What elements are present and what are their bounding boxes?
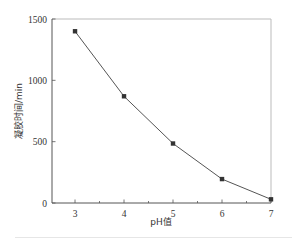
x-tick-label: 3 xyxy=(73,209,78,219)
plot-frame xyxy=(52,19,271,203)
x-axis-ticks xyxy=(75,200,271,204)
chart: 34567 050010001500 pH值 凝胶时间/min xyxy=(0,0,292,249)
y-tick-label: 1000 xyxy=(28,76,47,86)
x-tick-label: 4 xyxy=(122,209,127,219)
data-point-marker xyxy=(73,29,77,33)
x-tick-label: 7 xyxy=(269,209,274,219)
y-axis-tick-labels: 050010001500 xyxy=(28,15,47,209)
y-tick-label: 500 xyxy=(33,137,48,147)
x-axis-title: pH值 xyxy=(150,216,171,227)
y-tick-label: 0 xyxy=(42,199,47,209)
data-point-marker xyxy=(220,177,224,181)
data-point-marker xyxy=(122,94,126,98)
data-series xyxy=(73,29,273,201)
data-point-marker xyxy=(171,141,175,145)
x-axis-tick-labels: 34567 xyxy=(73,209,274,219)
y-axis-ticks xyxy=(52,19,56,203)
x-tick-label: 6 xyxy=(220,209,225,219)
y-axis-title: 凝胶时间/min xyxy=(13,83,24,139)
series-line xyxy=(75,31,271,199)
chart-canvas: 34567 050010001500 pH值 凝胶时间/min xyxy=(0,0,292,249)
data-point-marker xyxy=(269,197,273,201)
y-tick-label: 1500 xyxy=(28,15,47,25)
bottom-divider xyxy=(15,237,292,238)
